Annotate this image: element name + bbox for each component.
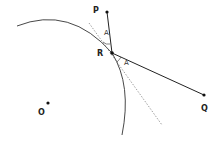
- point-p: [105, 10, 108, 13]
- point-o: [46, 101, 49, 104]
- mirror-arc: [17, 20, 125, 135]
- label-q: Q: [201, 105, 208, 113]
- angle-arc-bottom: [117, 57, 121, 62]
- angle-label-bottom: A: [124, 60, 129, 67]
- point-q: [202, 93, 205, 96]
- label-o: O: [38, 109, 45, 117]
- reflection-diagram: [0, 0, 223, 144]
- label-r: R: [97, 50, 103, 58]
- label-p: P: [93, 7, 99, 15]
- point-r: [110, 51, 114, 55]
- angle-arc-top: [103, 42, 110, 44]
- angle-label-top: A: [104, 30, 109, 37]
